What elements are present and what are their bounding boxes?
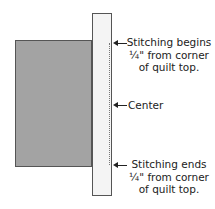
label-end-line2: ¼" from corner <box>126 171 212 184</box>
label-end-line1: Stitching ends <box>126 158 212 171</box>
label-stitching-ends: Stitching ends ¼" from corner of quilt t… <box>126 158 212 196</box>
label-begin-line2: ¼" from corner <box>126 49 212 62</box>
label-center: Center <box>128 99 163 112</box>
quilt-top-block <box>15 40 92 167</box>
arrow-line <box>117 105 127 106</box>
label-begin-line3: of quilt top. <box>126 61 212 74</box>
binding-diagram: Stitching begins ¼" from corner of quilt… <box>0 0 215 209</box>
stitching-line <box>109 43 110 165</box>
label-stitching-begins: Stitching begins ¼" from corner of quilt… <box>126 36 212 74</box>
label-begin-line1: Stitching begins <box>126 36 212 49</box>
label-end-line3: of quilt top. <box>126 183 212 196</box>
